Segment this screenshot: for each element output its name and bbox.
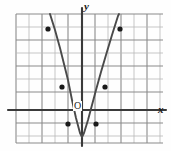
plotted-point <box>93 121 98 126</box>
parabola-curve <box>50 14 119 137</box>
plotted-point <box>65 121 70 126</box>
plotted-point <box>45 26 50 31</box>
coordinate-plane-svg <box>0 0 171 151</box>
grid-horizontal-lines <box>16 14 163 143</box>
plotted-point <box>102 84 107 89</box>
x-axis-label: x <box>158 104 164 115</box>
plotted-point <box>117 26 122 31</box>
plotted-point <box>59 84 64 89</box>
origin-label: O <box>73 101 82 111</box>
y-axis-label: y <box>84 1 89 12</box>
grid-vertical-lines <box>16 14 160 143</box>
graph-figure: y x O <box>0 0 171 151</box>
